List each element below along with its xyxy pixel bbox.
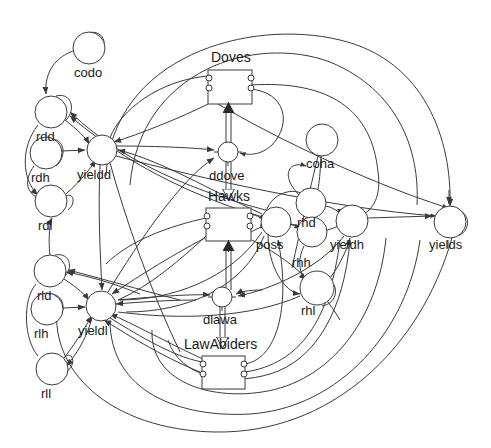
flow-valve-dlawa[interactable]: [212, 287, 232, 307]
variable-node-yieldl[interactable]: [86, 291, 116, 321]
variable-node-rdd[interactable]: [35, 96, 67, 128]
variable-node-codo[interactable]: [73, 32, 105, 64]
diagram-canvas: Doves Hawks LawAbiders ddove dlawa codo …: [0, 0, 491, 448]
var-label-rld: rld: [37, 289, 51, 302]
stock-port-Hawks-tl[interactable]: [204, 213, 210, 219]
link-yieldd-yieldl: [99, 165, 102, 290]
stock-port-Doves-tr[interactable]: [248, 75, 254, 81]
flow-label-dlawa: dlawa: [203, 313, 237, 326]
link-dlawa-yieldl: [116, 300, 196, 304]
var-label-yieldl: yieldl: [78, 324, 108, 337]
stock-port-Hawks-tr[interactable]: [247, 213, 253, 219]
variable-node-rll[interactable]: [36, 353, 68, 385]
var-label-rhl: rhl: [301, 304, 315, 317]
stock-port-LawAbiders-tl[interactable]: [200, 361, 206, 367]
var-label-rhh: rhh: [292, 256, 311, 269]
stock-label-lawabiders: LawAbiders: [184, 338, 257, 351]
variable-node-rhd[interactable]: [296, 188, 326, 218]
link-hawks-left-mid: [106, 218, 206, 264]
stock-port-Doves-tl[interactable]: [206, 75, 212, 81]
stock-port-Doves-bl[interactable]: [206, 85, 212, 91]
var-label-rdl: rdl: [38, 219, 52, 232]
link-doves-yieldd: [114, 104, 208, 142]
stock-port-LawAbiders-bl[interactable]: [200, 371, 206, 377]
stock-label-doves: Doves: [211, 51, 251, 64]
stock-doves-box: [208, 70, 252, 104]
var-label-rdd: rdd: [36, 130, 55, 143]
var-label-rlh: rlh: [34, 327, 48, 340]
variable-node-yieldh[interactable]: [336, 205, 368, 237]
link-yieldd-ddove: [116, 146, 214, 150]
variable-node-rhl[interactable]: [300, 271, 334, 305]
variable-node-yields[interactable]: [434, 206, 466, 238]
link-rdh-yieldd: [62, 150, 85, 151]
link-rlh-yieldl: [63, 307, 85, 308]
link-yieldh-yields: [368, 216, 432, 218]
var-label-coha: coha: [306, 157, 334, 170]
stock-lawabiders-box: [202, 356, 245, 389]
var-label-yieldh: yieldh: [330, 238, 364, 251]
flow-label-ddove: ddove: [209, 169, 244, 182]
stock-port-Hawks-br[interactable]: [247, 223, 253, 229]
var-label-yields: yields: [429, 238, 462, 251]
variable-node-coha[interactable]: [306, 124, 338, 156]
stock-port-LawAbiders-tr[interactable]: [241, 361, 247, 367]
variable-node-poss[interactable]: [261, 207, 291, 237]
stock-port-Doves-br[interactable]: [248, 85, 254, 91]
stock-port-Hawks-bl[interactable]: [204, 223, 210, 229]
stock-label-hawks: Hawks: [208, 190, 250, 203]
var-label-yieldd: yieldd: [77, 168, 111, 181]
var-label-codo: codo: [74, 66, 102, 79]
link-yieldl-ddove: [108, 158, 214, 292]
variable-node-rdl[interactable]: [35, 185, 67, 217]
link-outer-bottom-2: [110, 240, 420, 414]
variable-node-yieldd[interactable]: [87, 135, 117, 165]
var-label-rhd: rhd: [297, 216, 316, 229]
var-label-poss: poss: [256, 238, 283, 251]
stock-port-LawAbiders-br[interactable]: [241, 371, 247, 377]
stock-hawks-box: [206, 208, 251, 241]
flow-valve-ddove[interactable]: [218, 142, 238, 162]
link-rld-yieldl: [64, 279, 89, 300]
link-codo-rdd: [46, 50, 76, 94]
variable-node-rld[interactable]: [34, 255, 66, 287]
var-label-rll: rll: [41, 387, 51, 400]
var-label-rdh: rdh: [31, 171, 50, 184]
link-rdd-yieldd: [65, 120, 89, 144]
